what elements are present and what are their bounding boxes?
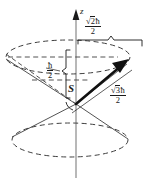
lower-cone-slant-left: [12, 104, 76, 137]
z-axis-arrowhead: [73, 9, 80, 20]
diagram-canvas: [0, 0, 153, 180]
radical-sqrt2: √2: [86, 16, 95, 26]
xy-projection-denominator: 2: [85, 26, 101, 36]
magnitude-label: √3ħ 2: [110, 85, 126, 104]
z-axis-label: z: [80, 7, 84, 16]
upper-cone-slant-upper: [6, 54, 76, 104]
spin-vector-label: S: [68, 83, 74, 94]
z-projection-fraction: ħ 2: [47, 61, 53, 79]
magnitude-numerator: √3ħ: [110, 85, 126, 95]
xy-projection-hbar: ħ: [95, 16, 99, 26]
magnitude-hbar: ħ: [120, 85, 124, 95]
xy-projection-label: √2ħ 2: [85, 16, 101, 35]
spin-cone-figure: √2ħ 2 ħ 2 √3ħ 2 S z: [0, 0, 153, 180]
z-projection-denominator: 2: [47, 70, 53, 80]
upper-cone-slant-lower: [6, 59, 76, 104]
z-projection-numerator: ħ: [47, 61, 53, 70]
lower-cone-slant-right: [76, 104, 128, 139]
magnitude-denominator: 2: [110, 95, 126, 105]
magnitude-fraction: √3ħ 2: [110, 85, 126, 104]
radical-sqrt3: √3: [111, 85, 120, 95]
z-projection-label: ħ 2: [47, 61, 53, 79]
xy-projection-fraction: √2ħ 2: [85, 16, 101, 35]
xy-projection-numerator: √2ħ: [85, 16, 101, 26]
